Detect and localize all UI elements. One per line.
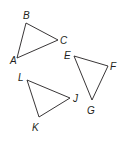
triangle-efg: EFG [64,50,117,116]
vertex-label-j: J [72,93,79,104]
vertex-label-a: A [9,55,17,66]
triangle-outline [17,23,58,58]
vertex-label-f: F [110,61,117,72]
vertex-label-b: B [23,10,30,21]
vertex-label-g: G [87,105,95,116]
vertex-label-l: L [18,72,24,83]
vertex-label-c: C [60,35,68,46]
vertex-label-k: K [32,122,40,133]
triangle-diagram: ABCEFGLJK [0,0,124,143]
triangle-outline [27,80,70,117]
vertex-label-e: E [64,50,71,61]
triangle-outline [74,56,108,100]
triangle-abc: ABC [9,10,68,66]
diagram-canvas: ABCEFGLJK [0,0,124,143]
triangle-jkl: LJK [18,72,79,133]
